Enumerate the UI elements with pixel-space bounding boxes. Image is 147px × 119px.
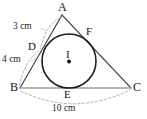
dimension-arc-bc [21,90,130,104]
leader-line-ad [41,29,47,32]
geometry-figure: A B C D E F I 3 cm 4 cm 10 cm [0,0,147,119]
triangle-side-ac [62,15,131,88]
incenter-point [67,60,71,64]
dimension-label-db: 4 cm [2,55,21,65]
dimension-label-bc: 10 cm [52,104,75,114]
dimension-label-ad: 3 cm [13,22,32,32]
touch-point-label-d: D [28,41,36,52]
vertex-label-a: A [58,1,67,13]
vertex-label-c: C [133,81,141,93]
incenter-label-i: I [66,49,70,60]
touch-point-label-f: F [86,26,92,37]
triangle-incircle-drawing [0,0,147,119]
touch-point-label-e: E [64,89,71,100]
dimension-arc-db [20,51,39,86]
vertex-label-b: B [10,81,18,93]
